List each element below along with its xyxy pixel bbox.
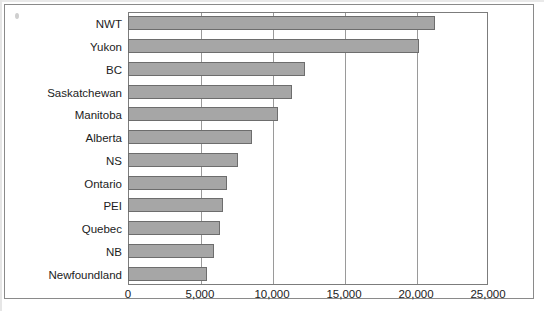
bar [128, 107, 278, 121]
bar-row [128, 267, 488, 281]
x-tick-label: 5,000 [186, 288, 215, 300]
category-label: Ontario [84, 177, 122, 191]
x-tick-label: 10,000 [254, 288, 289, 300]
category-label: Alberta [86, 131, 122, 145]
bar [128, 221, 220, 235]
category-label: Saskatchewan [47, 86, 122, 100]
bar [128, 153, 238, 167]
bar [128, 176, 227, 190]
bar [128, 198, 223, 212]
bar [128, 85, 292, 99]
category-axis-labels: NWTYukonBCSaskatchewanManitobaAlbertaNSO… [0, 12, 126, 285]
x-tick-label: 25,000 [470, 288, 505, 300]
x-tick-label: 0 [125, 288, 131, 300]
x-tick-label: 15,000 [326, 288, 361, 300]
category-label: NWT [96, 17, 122, 31]
bar-row [128, 39, 488, 53]
bar-row [128, 221, 488, 235]
category-label: Manitoba [75, 108, 122, 122]
x-tick-label: 20,000 [398, 288, 433, 300]
bar-row [128, 244, 488, 258]
bars-group [128, 12, 488, 285]
category-label: NB [106, 245, 122, 259]
bar-row [128, 176, 488, 190]
category-label: Yukon [90, 40, 122, 54]
bar-row [128, 130, 488, 144]
x-axis-tick-labels: 05,00010,00015,00020,00025,000 [0, 288, 544, 306]
category-label: NS [106, 154, 122, 168]
category-label: Quebec [82, 222, 122, 236]
bar [128, 16, 435, 30]
bar [128, 267, 207, 281]
category-label: PEI [103, 199, 122, 213]
category-label: Newfoundland [48, 268, 122, 282]
category-label: BC [106, 63, 122, 77]
bar-row [128, 62, 488, 76]
bar-row [128, 85, 488, 99]
horizontal-bar-chart: NWTYukonBCSaskatchewanManitobaAlbertaNSO… [0, 0, 544, 311]
bar [128, 130, 252, 144]
bar-row [128, 107, 488, 121]
bar [128, 39, 419, 53]
bar-row [128, 153, 488, 167]
bar [128, 62, 305, 76]
bar [128, 244, 214, 258]
bar-row [128, 16, 488, 30]
bar-row [128, 198, 488, 212]
